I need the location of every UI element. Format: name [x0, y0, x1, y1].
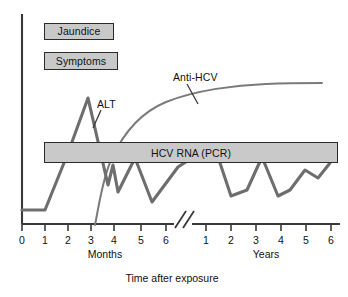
- x-tick-label-year-5: 5: [303, 234, 309, 246]
- hcv-rna-band: HCV RNA (PCR): [44, 142, 338, 163]
- x-axis-group-label-years: Years: [253, 248, 279, 260]
- x-tick-label-month-3: 3: [88, 234, 94, 246]
- legend-box-symptoms: Symptoms: [44, 52, 118, 70]
- x-tick-label-month-1: 1: [42, 234, 48, 246]
- hcv-serology-figure: Jaundice Symptoms HCV RNA (PCR) ALT Anti…: [0, 0, 348, 297]
- series-label-alt: ALT: [97, 98, 116, 110]
- axis-break-icon: [175, 211, 194, 228]
- x-tick-label-month-6: 6: [163, 234, 169, 246]
- x-axis-title: Time after exposure: [126, 272, 219, 284]
- x-axis-group-label-months: Months: [88, 248, 122, 260]
- x-tick-label-month-0: 0: [19, 234, 25, 246]
- x-tick-label-month-2: 2: [65, 234, 71, 246]
- legend-label-jaundice: Jaundice: [58, 26, 101, 37]
- x-tick-label-month-5: 5: [138, 234, 144, 246]
- x-tick-label-year-2: 2: [228, 234, 234, 246]
- x-tick-label-year-3: 3: [253, 234, 259, 246]
- x-tick-label-month-4: 4: [111, 234, 117, 246]
- figure-caption: [8, 289, 340, 297]
- legend-box-jaundice: Jaundice: [44, 23, 114, 40]
- x-tick-label-year-1: 1: [203, 234, 209, 246]
- x-tick-label-year-6: 6: [328, 234, 334, 246]
- legend-label-symptoms: Symptoms: [56, 56, 106, 67]
- x-tick-label-year-4: 4: [278, 234, 284, 246]
- series-label-anti-hcv: Anti-HCV: [173, 71, 218, 83]
- hcv-rna-band-label: HCV RNA (PCR): [151, 147, 231, 159]
